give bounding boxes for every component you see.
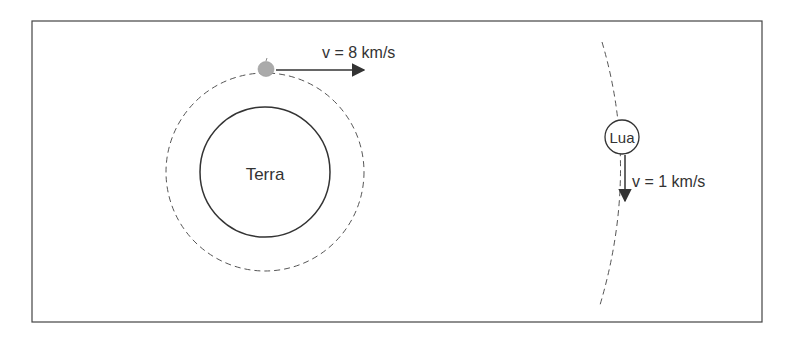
moon-orbit-dashed [600, 42, 621, 305]
earth-label: Terra [246, 165, 285, 184]
moon-velocity-label: v = 1 km/s [632, 173, 705, 190]
orbit-diagram: Terra v = 8 km/s Lua v = 1 km/s [0, 0, 789, 338]
satellite-velocity-label: v = 8 km/s [322, 44, 395, 61]
moon-label: Lua [609, 129, 635, 146]
apple-icon [258, 58, 274, 77]
frame-border [32, 21, 762, 322]
